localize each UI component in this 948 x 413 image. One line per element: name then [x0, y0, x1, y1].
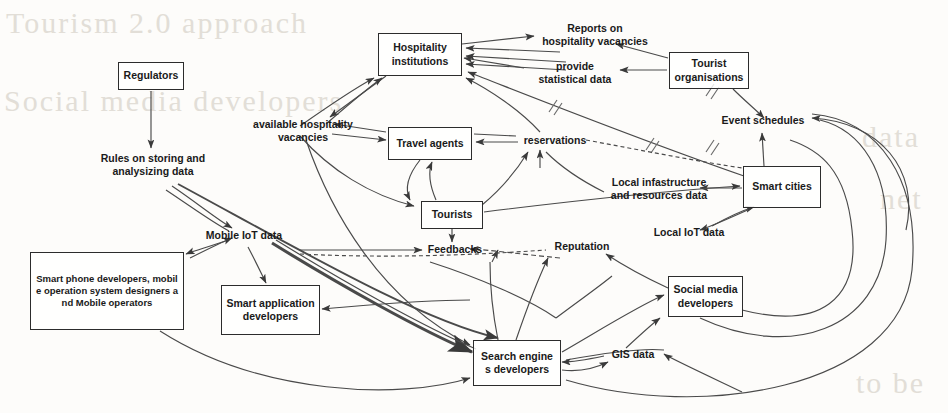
node-social-media-developers[interactable]: Social media developers	[668, 276, 743, 317]
flow-label-event-schedules: Event schedules	[718, 114, 808, 127]
node-tourists[interactable]: Tourists	[421, 201, 483, 229]
flow-label-mobile-iot-data: Mobile IoT data	[198, 229, 290, 242]
node-regulators[interactable]: Regulators	[118, 62, 184, 90]
flow-label-reservations: reservations	[519, 134, 591, 147]
node-search-engines-developers[interactable]: Search engine s developers	[473, 340, 561, 386]
diagram-canvas: Tourism 2.0 approach Social media develo…	[0, 0, 948, 413]
flow-label-available-hospitality-vacancies: available hospitality vacancies	[240, 118, 366, 143]
node-hospitality-institutions[interactable]: Hospitality institutions	[378, 33, 462, 76]
flow-label-local-infrastructure-and-resources-data: Local infastructure and resources data	[600, 176, 718, 201]
flow-label-rules-on-storing-and-analysizing-data: Rules on storing and analysizing data	[88, 152, 218, 177]
flow-label-feedbacks: Feedbacks	[425, 243, 485, 256]
node-smart-application-developers[interactable]: Smart application developers	[221, 285, 320, 335]
node-smart-cities[interactable]: Smart cities	[743, 166, 821, 208]
flow-label-gis-data: GIS data	[605, 348, 661, 361]
node-travel-agents[interactable]: Travel agents	[388, 127, 472, 160]
flow-label-provide-statistical-data: provide statistical data	[527, 60, 623, 85]
node-smartphone-developers[interactable]: Smart phone developers, mobil e operatio…	[30, 252, 184, 330]
flow-label-reports-on-hospitality-vacancies: Reports on hospitality vacancies	[532, 22, 658, 47]
flow-label-reputation: Reputation	[550, 240, 614, 253]
node-tourist-organisations[interactable]: Tourist organisations	[669, 52, 749, 89]
flow-label-local-iot-data: Local IoT data	[646, 226, 732, 239]
